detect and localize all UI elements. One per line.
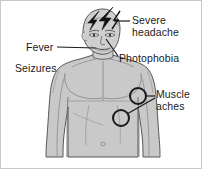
label-photophobia: Photophobia (119, 53, 179, 65)
symptoms-illustration: Severe headache Fever Seizures Photophob… (0, 0, 202, 169)
pupil-left (93, 34, 95, 36)
label-photophobia-text: Photophobia (119, 52, 179, 64)
label-muscle-aches: Muscle aches (156, 89, 190, 112)
label-severe-headache-line2: headache (132, 27, 179, 39)
label-muscle-aches-line2: aches (156, 101, 190, 113)
label-muscle-aches-line1: Muscle (156, 88, 190, 100)
label-severe-headache: Severe headache (132, 15, 179, 38)
label-fever-text: Fever (26, 41, 53, 53)
pupil-right (109, 34, 111, 36)
label-seizures-text: Seizures (15, 62, 57, 74)
label-seizures: Seizures (15, 63, 57, 75)
label-fever: Fever (26, 42, 53, 54)
label-severe-headache-line1: Severe (132, 14, 166, 26)
